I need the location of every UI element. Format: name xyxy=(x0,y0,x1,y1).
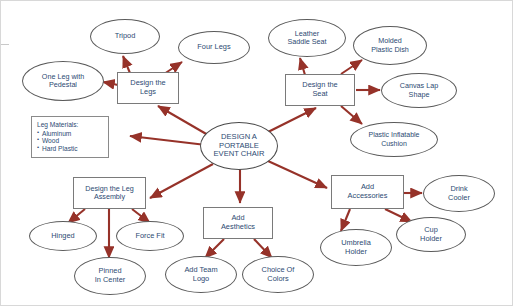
node-leather-saddle-seat[interactable]: Leather Saddle Seat xyxy=(268,19,346,57)
add-accessories-line-2: Accessories xyxy=(348,192,388,201)
design-leg-assembly-line-2: Assembly xyxy=(85,193,133,201)
edge-design-seat-plastic-inflatable-cushion xyxy=(341,106,362,124)
node-one-leg-with-pedestal[interactable]: One Leg with Pedestal xyxy=(22,61,104,101)
edge-accessories-umbrella-holder xyxy=(341,209,350,231)
node-umbrella-holder[interactable]: Umbrella Holder xyxy=(320,229,392,266)
node-add-accessories[interactable]: Add Accessories xyxy=(331,175,404,209)
design-seat-line-2: Seat xyxy=(302,90,337,99)
node-cup-holder[interactable]: Cup Holder xyxy=(396,217,466,252)
node-molded-plastic-dish[interactable]: Molded Plastic Dish xyxy=(353,26,427,65)
node-drink-cooler[interactable]: Drink Cooler xyxy=(423,175,495,212)
node-design-the-leg-assembly[interactable]: Design the Leg Assembly xyxy=(73,177,146,209)
node-design-the-seat[interactable]: Design the Seat xyxy=(285,74,355,106)
force-fit-label: Force Fit xyxy=(135,232,164,241)
leg-materials-item: Aluminum xyxy=(37,130,103,138)
one-leg-pedestal-line-2: Pedestal xyxy=(42,81,84,89)
mind-map-canvas: DESIGN A PORTABLE EVENT CHAIR Design the… xyxy=(0,0,513,306)
add-team-logo-line-2: Logo xyxy=(184,275,217,284)
edge-center-leg-materials xyxy=(130,136,206,145)
edge-design-seat-leather-saddle-seat xyxy=(300,58,305,75)
leg-materials-item: Wood xyxy=(37,137,103,145)
choice-of-colors-line-2: Colors xyxy=(262,275,295,284)
edge-aesthetics-add-team-logo xyxy=(205,239,224,258)
node-add-team-logo[interactable]: Add Team Logo xyxy=(165,256,237,293)
node-add-aesthetics[interactable]: Add Aesthetics xyxy=(203,207,273,239)
umbrella-holder-line-2: Holder xyxy=(341,248,371,257)
leather-saddle-seat-line-2: Saddle Seat xyxy=(287,38,326,46)
edge-design-legs-one-leg-pedestal xyxy=(103,82,118,85)
design-legs-line-2: Legs xyxy=(130,88,165,97)
page-tick-mark xyxy=(0,44,9,45)
cup-holder-line-2: Holder xyxy=(420,235,442,244)
add-aesthetics-line-2: Aesthetics xyxy=(221,223,255,232)
drink-cooler-line-2: Cooler xyxy=(448,194,470,203)
node-four-legs[interactable]: Four Legs xyxy=(178,31,250,64)
center-line-3: EVENT CHAIR xyxy=(214,150,265,159)
node-canvas-lap-shape[interactable]: Canvas Lap Shape xyxy=(381,73,457,108)
four-legs-label: Four Legs xyxy=(197,43,230,52)
tripod-label: Tripod xyxy=(115,32,136,41)
edge-aesthetics-choice-of-colors xyxy=(254,239,272,258)
hinged-label: Hinged xyxy=(51,232,74,241)
node-tripod[interactable]: Tripod xyxy=(90,19,160,54)
edge-center-design-leg-assembly xyxy=(150,164,213,198)
edge-center-design-seat xyxy=(268,108,316,132)
node-plastic-inflatable-cushion[interactable]: Plastic Inflatable Cushion xyxy=(350,122,438,157)
node-center-design-a-portable-event-chair[interactable]: DESIGN A PORTABLE EVENT CHAIR xyxy=(200,122,278,170)
node-design-the-legs[interactable]: Design the Legs xyxy=(117,72,179,104)
node-choice-of-colors[interactable]: Choice Of Colors xyxy=(242,256,314,293)
canvas-lap-shape-line-2: Shape xyxy=(400,91,438,99)
plastic-inflatable-cushion-line-1: Plastic Inflatable xyxy=(369,131,420,139)
leg-materials-title: Leg Materials: xyxy=(37,121,103,129)
node-force-fit[interactable]: Force Fit xyxy=(116,221,184,251)
node-pinned-in-center[interactable]: Pinned In Center xyxy=(74,257,146,295)
edge-center-add-accessories xyxy=(268,161,327,188)
leg-materials-list: Aluminum Wood Hard Plastic xyxy=(37,130,103,153)
pinned-in-center-line-2: In Center xyxy=(95,276,125,285)
edge-design-seat-molded-plastic-dish xyxy=(341,60,362,74)
leg-materials-item: Hard Plastic xyxy=(37,145,103,153)
node-leg-materials[interactable]: Leg Materials: Aluminum Wood Hard Plasti… xyxy=(31,116,109,158)
node-hinged[interactable]: Hinged xyxy=(29,221,97,251)
molded-plastic-dish-line-2: Plastic Dish xyxy=(371,46,409,54)
plastic-inflatable-cushion-line-2: Cushion xyxy=(369,140,420,148)
edge-center-design-legs xyxy=(158,106,208,135)
